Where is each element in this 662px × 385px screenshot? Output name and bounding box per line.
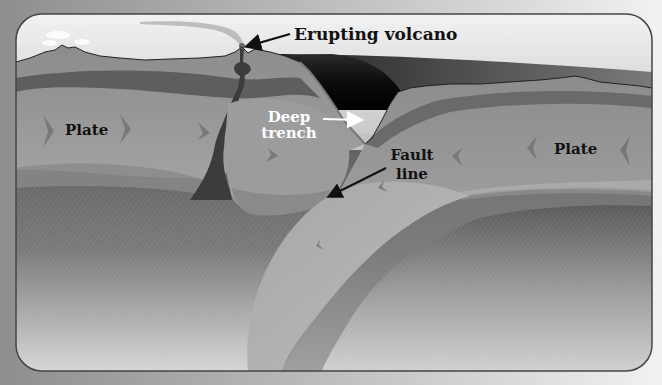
label-fault: Fault xyxy=(390,146,433,164)
label-line: line xyxy=(396,165,428,183)
subduction-diagram: Erupting volcano Deep trench Fault line … xyxy=(0,0,662,385)
label-plate-left: Plate xyxy=(65,121,108,139)
label-trench: trench xyxy=(261,124,316,142)
label-erupting-volcano: Erupting volcano xyxy=(294,24,457,44)
diagram-stage: Erupting volcano Deep trench Fault line … xyxy=(0,0,662,385)
label-plate-right: Plate xyxy=(554,140,597,158)
trench-pointer-arrow xyxy=(323,119,360,120)
